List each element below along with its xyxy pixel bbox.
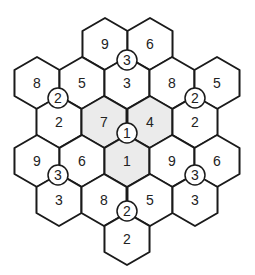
cell-number: 2: [191, 114, 199, 130]
cell-number: 6: [78, 153, 86, 169]
vertex-circle: 3: [117, 50, 137, 70]
cell-number: 9: [168, 153, 176, 169]
circle-number: 2: [191, 90, 199, 106]
vertex-circle: 3: [185, 165, 205, 185]
cell-number: 6: [146, 36, 154, 52]
vertex-circle: 2: [185, 88, 205, 108]
cell-number: 1: [123, 153, 131, 169]
cell-number: 3: [191, 192, 199, 208]
circle-number: 3: [191, 167, 199, 183]
cell-number: 9: [101, 36, 109, 52]
vertex-circle: 2: [48, 88, 68, 108]
cell-number: 8: [33, 75, 41, 91]
cell-number: 3: [55, 192, 63, 208]
cell-number: 3: [123, 75, 131, 91]
cell-number: 2: [55, 114, 63, 130]
vertex-circle: 2: [117, 201, 137, 221]
vertex-circle: 1: [117, 123, 137, 143]
vertex-circle: 3: [48, 165, 68, 185]
cell-number: 6: [213, 153, 221, 169]
cell-number: 2: [123, 231, 131, 247]
cell-number: 7: [100, 114, 108, 130]
cell-number: 5: [78, 75, 86, 91]
circle-number: 2: [54, 90, 62, 106]
cell-number: 8: [168, 75, 176, 91]
hex-puzzle-board: 968538527429619638532 3221332: [0, 0, 255, 275]
circle-number: 3: [54, 167, 62, 183]
circle-number: 1: [123, 125, 131, 141]
cell-number: 9: [33, 153, 41, 169]
circle-number: 2: [123, 203, 131, 219]
cell-number: 4: [146, 114, 154, 130]
cell-number: 8: [100, 192, 108, 208]
hex-grid: 968538527429619638532 3221332: [0, 0, 255, 275]
cell-number: 5: [146, 192, 154, 208]
cell-number: 5: [213, 75, 221, 91]
circle-number: 3: [123, 52, 131, 68]
